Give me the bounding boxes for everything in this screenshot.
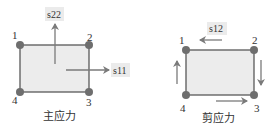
node-3-icon bbox=[85, 88, 93, 96]
node-4-label: 4 bbox=[12, 94, 18, 106]
node-2-label: 2 bbox=[87, 31, 93, 43]
node-4-icon bbox=[182, 91, 190, 99]
s12-label: s12 bbox=[209, 23, 223, 34]
principal-stress-diagram: s22 s11 1 2 3 4 主应力 bbox=[12, 7, 130, 123]
node-2-label: 2 bbox=[252, 34, 258, 46]
shear-stress-caption: 剪应力 bbox=[202, 111, 235, 125]
node-4-label: 4 bbox=[180, 102, 186, 114]
stress-diagram: s22 s11 1 2 3 4 主应力 s12 1 2 3 bbox=[0, 0, 277, 134]
node-1-icon bbox=[182, 46, 190, 54]
node-2-icon bbox=[250, 46, 258, 54]
node-3-label: 3 bbox=[86, 96, 92, 108]
s11-label: s11 bbox=[113, 65, 127, 76]
element-rectangle bbox=[186, 50, 254, 95]
principal-stress-caption: 主应力 bbox=[43, 109, 76, 123]
node-3-label: 3 bbox=[254, 102, 260, 114]
s22-label: s22 bbox=[47, 9, 61, 20]
node-3-icon bbox=[250, 91, 258, 99]
node-1-icon bbox=[16, 41, 24, 49]
node-1-label: 1 bbox=[12, 29, 18, 41]
node-1-label: 1 bbox=[179, 34, 185, 46]
shear-stress-diagram: s12 1 2 3 4 剪应力 bbox=[177, 22, 261, 125]
